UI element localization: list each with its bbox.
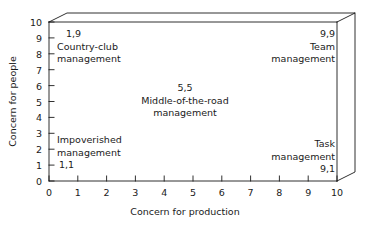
x-tick-label-2: 2 <box>97 188 117 198</box>
x-tick-label-0: 0 <box>39 188 59 198</box>
y-axis-title: Concern for people <box>7 32 18 172</box>
depth-top-face <box>49 13 355 22</box>
y-tick-label-5: 5 <box>22 98 42 108</box>
annotation-middle-of-the-road-management: 5,5 Middle-of-the-road management <box>141 82 228 120</box>
x-tick-label-8: 8 <box>269 188 289 198</box>
x-axis-ticks <box>49 176 337 181</box>
x-axis-title: Concern for production <box>0 206 370 217</box>
annotation-impoverished-management: Impoverished management 1,1 <box>57 134 122 172</box>
y-tick-label-3: 3 <box>22 129 42 139</box>
annotation-name-task-line1: Task <box>271 138 335 151</box>
annotation-name-country-club-line2: management <box>57 53 121 66</box>
x-tick-label-9: 9 <box>298 188 318 198</box>
annotation-coord-1-9: 1,9 <box>57 28 121 41</box>
y-tick-label-10: 10 <box>22 18 42 28</box>
annotation-name-team-line2: management <box>271 53 335 66</box>
managerial-grid-figure: 0 1 2 3 4 5 6 7 8 9 10 0 1 2 3 4 5 6 7 8… <box>0 0 370 226</box>
annotation-coord-1-1: 1,1 <box>57 159 122 172</box>
annotation-country-club-management: 1,9 Country-club management <box>57 28 121 66</box>
y-tick-label-6: 6 <box>22 82 42 92</box>
annotation-name-team-line1: Team <box>271 41 335 54</box>
annotation-name-middle-line2: management <box>141 107 228 120</box>
y-axis-ticks <box>49 22 54 181</box>
x-tick-label-10: 10 <box>327 188 347 198</box>
depth-right-face <box>337 13 355 181</box>
x-tick-label-5: 5 <box>183 188 203 198</box>
y-tick-label-2: 2 <box>22 145 42 155</box>
annotation-name-impoverished-line2: management <box>57 147 122 160</box>
annotation-team-management: 9,9 Team management <box>271 28 335 66</box>
annotation-name-country-club-line1: Country-club <box>57 41 121 54</box>
annotation-coord-9-1: 9,1 <box>271 163 335 176</box>
annotation-coord-5-5: 5,5 <box>141 82 228 95</box>
annotation-name-middle-line1: Middle-of-the-road <box>141 95 228 108</box>
x-tick-label-7: 7 <box>241 188 261 198</box>
y-tick-label-1: 1 <box>22 161 42 171</box>
y-tick-label-9: 9 <box>22 34 42 44</box>
y-tick-label-0: 0 <box>22 177 42 187</box>
annotation-name-task-line2: management <box>271 151 335 164</box>
y-tick-label-7: 7 <box>22 66 42 76</box>
x-tick-label-4: 4 <box>154 188 174 198</box>
x-tick-label-1: 1 <box>68 188 88 198</box>
y-tick-label-8: 8 <box>22 50 42 60</box>
annotation-name-impoverished-line1: Impoverished <box>57 134 122 147</box>
annotation-coord-9-9: 9,9 <box>271 28 335 41</box>
annotation-task-management: Task management 9,1 <box>271 138 335 176</box>
x-tick-label-6: 6 <box>212 188 232 198</box>
x-tick-label-3: 3 <box>125 188 145 198</box>
y-tick-label-4: 4 <box>22 113 42 123</box>
